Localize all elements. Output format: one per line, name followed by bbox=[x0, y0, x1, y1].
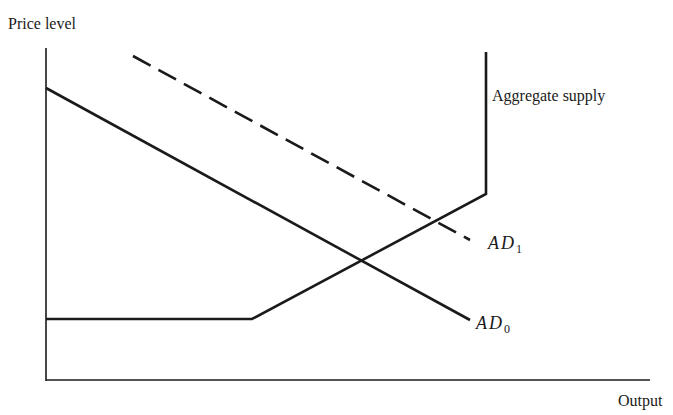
x-axis-label: Output bbox=[618, 392, 662, 410]
ad1-label: AD1 bbox=[488, 233, 522, 254]
y-axis-label: Price level bbox=[8, 15, 76, 33]
ad0-curve bbox=[46, 88, 470, 320]
ad0-label: AD0 bbox=[476, 313, 510, 334]
ad1-label-main: AD bbox=[488, 233, 516, 253]
ad1-label-sub: 1 bbox=[516, 242, 522, 256]
ad1-curve-dashed bbox=[133, 56, 470, 240]
chart-canvas bbox=[0, 0, 673, 415]
ad0-label-sub: 0 bbox=[504, 322, 510, 336]
aggregate-supply-curve bbox=[46, 52, 486, 319]
ad0-label-main: AD bbox=[476, 313, 504, 333]
aggregate-supply-label: Aggregate supply bbox=[492, 87, 605, 105]
